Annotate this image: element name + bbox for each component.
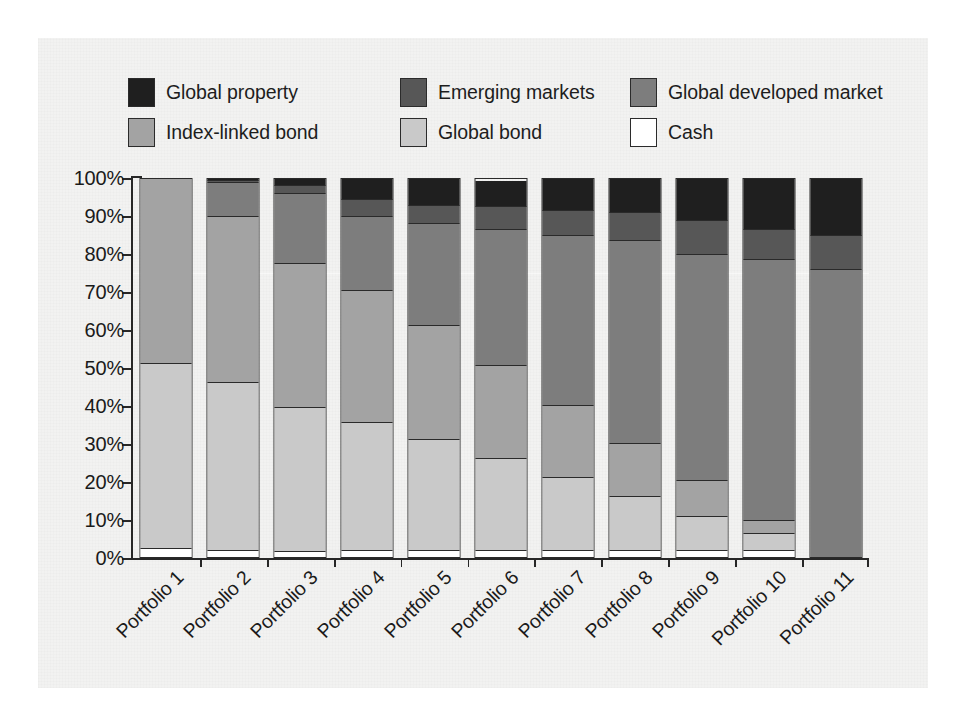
bar-segment[interactable] [743, 260, 794, 521]
bar-segment[interactable] [475, 207, 526, 230]
bar-slot [468, 178, 535, 558]
bar-segment[interactable] [676, 179, 727, 221]
y-axis-tick-label: 100% [74, 167, 124, 190]
bar-segment[interactable] [409, 551, 460, 557]
bar-slot [401, 178, 468, 558]
bar-segment[interactable] [342, 551, 393, 557]
bar-segment[interactable] [810, 179, 861, 236]
bar-segment[interactable] [275, 186, 326, 193]
bar-segment[interactable] [409, 326, 460, 439]
bar-segment[interactable] [208, 183, 259, 217]
bar-segment[interactable] [275, 194, 326, 265]
bar-segment[interactable] [475, 366, 526, 459]
legend-item-label: Cash [668, 121, 713, 144]
legend-item-label: Index-linked bond [166, 121, 318, 144]
bar-segment[interactable] [208, 383, 259, 551]
bars-container [133, 178, 869, 558]
bar-segment[interactable] [542, 551, 593, 557]
bar-segment[interactable] [275, 408, 326, 552]
bar-segment[interactable] [609, 179, 660, 213]
bar-segment[interactable] [475, 181, 526, 207]
x-axis-label: Portfolio 3 [246, 566, 323, 643]
y-axis-tick-label: 20% [85, 471, 124, 494]
y-axis-tick-label: 90% [85, 205, 124, 228]
bar-segment[interactable] [275, 264, 326, 408]
bar-segment[interactable] [743, 551, 794, 557]
bar-segment[interactable] [810, 236, 861, 270]
bar-segment[interactable] [542, 406, 593, 478]
bar-segment[interactable] [743, 230, 794, 260]
bar-segment[interactable] [275, 552, 326, 557]
legend-item-label: Emerging markets [438, 81, 595, 104]
bar-segment[interactable] [342, 217, 393, 291]
bar-segment[interactable] [342, 200, 393, 217]
bar-segment[interactable] [342, 179, 393, 200]
bar-segment[interactable] [475, 230, 526, 366]
bar-segment[interactable] [609, 444, 660, 497]
legend-item[interactable]: Global developed market [630, 78, 898, 107]
legend-swatch-icon [128, 118, 155, 147]
bar-segment[interactable] [609, 497, 660, 552]
bar-segment[interactable] [676, 221, 727, 255]
bar-segment[interactable] [810, 270, 861, 557]
legend-item-label: Global bond [438, 121, 542, 144]
bar-slot [133, 178, 200, 558]
legend-item[interactable]: Index-linked bond [128, 118, 400, 147]
y-axis-tick-label: 40% [85, 395, 124, 418]
bar-segment[interactable] [409, 179, 460, 205]
bar-segment[interactable] [409, 224, 460, 326]
legend-item[interactable]: Cash [630, 118, 898, 147]
stacked-bar[interactable] [541, 178, 594, 558]
bar-segment[interactable] [475, 551, 526, 557]
stacked-bar[interactable] [742, 178, 795, 558]
legend-item[interactable]: Global bond [400, 118, 630, 147]
stacked-bar[interactable] [408, 178, 461, 558]
bar-segment[interactable] [676, 551, 727, 557]
bar-segment[interactable] [275, 179, 326, 186]
bar-segment[interactable] [342, 423, 393, 552]
bar-segment[interactable] [542, 211, 593, 236]
bar-segment[interactable] [409, 206, 460, 225]
bar-segment[interactable] [141, 179, 192, 364]
stacked-bar[interactable] [140, 178, 193, 558]
legend-item[interactable]: Emerging markets [400, 78, 630, 107]
stacked-bar[interactable] [474, 178, 527, 558]
x-axis-labels: Portfolio 1Portfolio 2Portfolio 3Portfol… [131, 566, 867, 696]
bar-segment[interactable] [409, 440, 460, 552]
plot-area: 0%10%20%30%40%50%60%70%80%90%100% [131, 178, 869, 560]
legend-item[interactable]: Global property [128, 78, 400, 107]
bar-segment[interactable] [676, 255, 727, 482]
bar-segment[interactable] [141, 364, 192, 549]
bar-segment[interactable] [475, 459, 526, 552]
bar-slot [200, 178, 267, 558]
legend-swatch-icon [400, 118, 427, 147]
bar-segment[interactable] [743, 534, 794, 551]
bar-segment[interactable] [342, 291, 393, 423]
bar-segment[interactable] [676, 517, 727, 551]
bar-segment[interactable] [743, 521, 794, 534]
bar-segment[interactable] [609, 551, 660, 557]
bar-segment[interactable] [208, 551, 259, 557]
stacked-bar[interactable] [274, 178, 327, 558]
bar-segment[interactable] [743, 179, 794, 230]
bar-segment[interactable] [542, 179, 593, 211]
bar-segment[interactable] [676, 481, 727, 517]
bar-segment[interactable] [609, 241, 660, 443]
stacked-bar[interactable] [341, 178, 394, 558]
y-axis-tick-label: 30% [85, 433, 124, 456]
stacked-bar[interactable] [608, 178, 661, 558]
bar-segment[interactable] [141, 549, 192, 557]
bar-segment[interactable] [542, 478, 593, 552]
y-axis-tick-label: 0% [95, 547, 124, 570]
bar-segment[interactable] [542, 236, 593, 406]
stacked-bar[interactable] [675, 178, 728, 558]
stacked-bar[interactable] [809, 178, 862, 558]
bar-segment[interactable] [609, 213, 660, 241]
bar-slot [601, 178, 668, 558]
x-axis-tick-mark [867, 558, 869, 567]
bar-segment[interactable] [208, 217, 259, 383]
chart-figure: Global propertyEmerging marketsGlobal de… [0, 0, 965, 718]
stacked-bar[interactable] [207, 178, 260, 558]
chart-legend: Global propertyEmerging marketsGlobal de… [128, 72, 898, 152]
bar-slot [534, 178, 601, 558]
